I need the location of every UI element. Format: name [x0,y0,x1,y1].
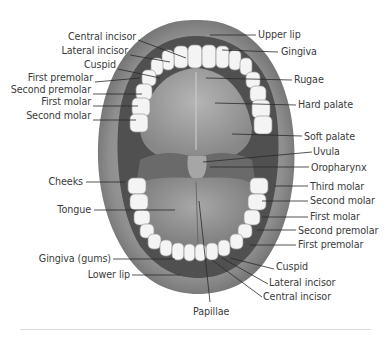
label-second-molar-upper: Second molar [26,110,91,121]
label-second-premolar-upper: Second premolar [11,84,91,95]
label-cheeks: Cheeks [48,176,83,187]
label-second-premolar-lower: Second premolar [298,225,378,236]
oral-cavity-diagram: Central incisor Lateral incisor Cuspid F… [0,0,386,337]
label-cuspid-lower: Cuspid [276,261,308,272]
label-second-molar-lower: Second molar [310,195,375,206]
label-gingiva: Gingiva [281,46,317,57]
label-lateral-incisor-lower: Lateral incisor [269,277,335,288]
label-central-incisor-lower: Central incisor [263,291,331,302]
label-first-premolar-upper: First premolar [28,72,93,83]
label-first-molar-lower: First molar [310,211,360,222]
divider [20,329,371,330]
label-soft-palate: Soft palate [304,131,355,142]
label-upper-lip: Upper lip [258,29,301,40]
label-gingiva-gums: Gingiva (gums) [39,253,111,264]
label-first-premolar-lower: First premolar [298,239,363,250]
label-oropharynx: Oropharynx [311,162,367,173]
label-papillae: Papillae [193,306,229,317]
label-uvula: Uvula [313,146,340,157]
label-central-incisor-upper: Central incisor [68,31,136,42]
label-tongue: Tongue [57,204,91,215]
label-first-molar-upper: First molar [41,96,91,107]
label-cuspid-upper: Cuspid [84,59,116,70]
label-lower-lip: Lower lip [88,269,130,280]
label-third-molar: Third molar [310,181,364,192]
label-hard-palate: Hard palate [298,99,353,110]
label-lateral-incisor-upper: Lateral incisor [62,45,128,56]
label-rugae: Rugae [294,74,324,85]
